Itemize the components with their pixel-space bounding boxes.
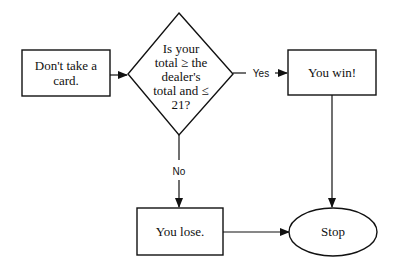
node-dont-take-card: Don't take a card.: [22, 50, 110, 96]
node-text-line: card.: [53, 73, 79, 88]
node-text-line: You lose.: [156, 224, 205, 239]
node-stop: Stop: [289, 208, 377, 256]
edge-label-no: No: [173, 166, 186, 177]
node-text-line: Is your: [163, 41, 200, 56]
node-decision: Is your total ≥ the dealer's total and ≤…: [128, 13, 233, 135]
node-you-win: You win!: [288, 50, 376, 95]
node-text-line: total and ≤: [153, 83, 209, 98]
node-text-line: Stop: [321, 224, 345, 239]
flowchart: Yes No Don't take a card. Is your total …: [0, 0, 397, 267]
node-text-line: total ≥ the: [155, 55, 208, 70]
node-text-line: Don't take a: [35, 58, 97, 73]
edge-label-yes: Yes: [253, 68, 269, 79]
node-you-lose: You lose.: [137, 208, 223, 255]
node-text-line: 21?: [172, 97, 191, 112]
edge-decision-to-win: Yes: [233, 68, 287, 79]
node-text-line: You win!: [308, 65, 356, 80]
edge-decision-to-lose: No: [173, 135, 186, 207]
node-text-line: dealer's: [161, 69, 200, 84]
